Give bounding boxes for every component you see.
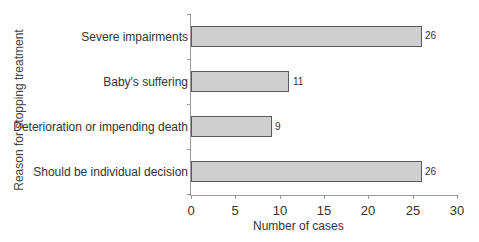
y-tick — [187, 59, 191, 60]
y-tick — [187, 14, 191, 15]
bar-deterioration — [191, 116, 272, 137]
bar-babys-suffering — [191, 71, 289, 92]
category-label: Should be individual decision — [33, 165, 188, 179]
x-tick — [413, 195, 414, 199]
x-tick — [457, 195, 458, 199]
x-tick-label: 0 — [176, 203, 206, 218]
category-label: Severe impairments — [81, 30, 188, 44]
value-label: 26 — [425, 166, 436, 177]
x-tick — [235, 195, 236, 199]
x-tick-label: 10 — [265, 203, 295, 218]
value-label: 11 — [293, 76, 303, 87]
x-tick-label: 15 — [309, 203, 339, 218]
value-label: 9 — [275, 121, 281, 132]
x-tick-label: 20 — [353, 203, 383, 218]
x-tick — [324, 195, 325, 199]
x-tick — [191, 195, 192, 199]
x-tick — [368, 195, 369, 199]
category-label: Baby's suffering — [103, 75, 188, 89]
x-tick-label: 25 — [398, 203, 428, 218]
x-axis-label: Number of cases — [253, 219, 344, 233]
x-tick — [280, 195, 281, 199]
x-tick-label: 5 — [220, 203, 250, 218]
x-tick-label: 30 — [442, 203, 472, 218]
bar-individual-decision — [191, 161, 422, 182]
y-tick — [187, 149, 191, 150]
category-label: Deterioration or impending death — [13, 120, 188, 134]
y-tick — [187, 104, 191, 105]
y-axis-label: Reason for stopping treatment — [12, 10, 28, 210]
value-label: 26 — [425, 30, 436, 41]
bar-severe-impairments — [191, 26, 422, 47]
